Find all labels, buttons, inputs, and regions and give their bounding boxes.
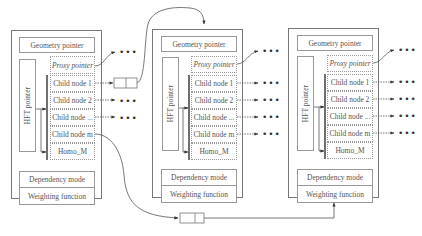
connector-arrows	[0, 0, 422, 236]
